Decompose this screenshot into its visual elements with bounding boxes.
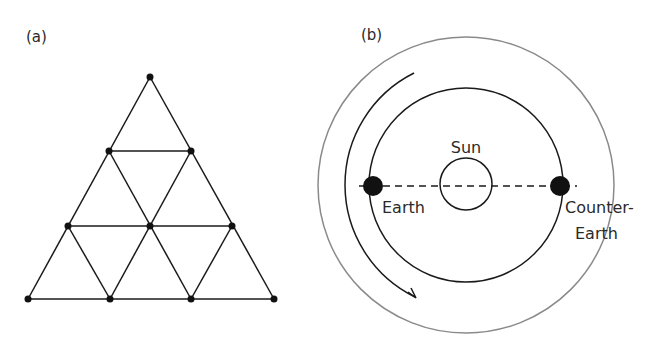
- sun-circle: [440, 158, 492, 210]
- figure: (a) (b) Sun Earth Counter- Earth: [0, 0, 665, 364]
- sun-label: Sun: [451, 138, 481, 157]
- panel-a-nodes: [25, 74, 278, 303]
- lattice-node: [106, 148, 113, 155]
- counter-earth-label-line2: Earth: [575, 224, 618, 243]
- lattice-node: [188, 296, 195, 303]
- lattice-node: [107, 296, 114, 303]
- lattice-node: [147, 223, 154, 230]
- panel-a-label: (a): [26, 28, 47, 46]
- lattice-node: [65, 223, 72, 230]
- earth-dot: [363, 176, 383, 196]
- lattice-node: [271, 296, 278, 303]
- lattice-node: [229, 223, 236, 230]
- inner-orbit-circle: [369, 88, 563, 282]
- panel-a-triangle-lattice: [28, 77, 274, 299]
- lattice-node: [25, 296, 32, 303]
- lattice-node: [188, 148, 195, 155]
- panel-b-label: (b): [361, 26, 382, 44]
- arrowhead-icon: [408, 288, 416, 298]
- counter-earth-dot: [550, 176, 570, 196]
- lattice-node: [147, 74, 154, 81]
- earth-label: Earth: [382, 198, 425, 217]
- counter-earth-label-line1: Counter-: [565, 198, 634, 217]
